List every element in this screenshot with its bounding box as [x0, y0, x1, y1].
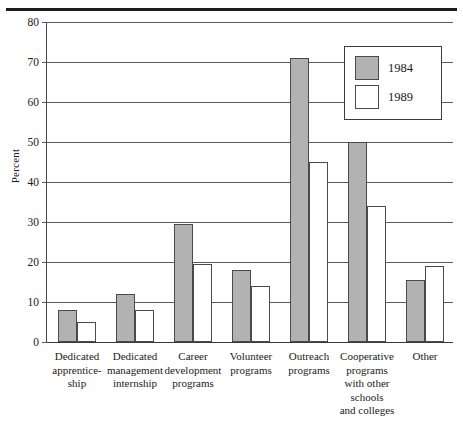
y-tick-label-40: 40 — [28, 176, 40, 188]
x-category-label-line: and colleges — [332, 404, 402, 418]
y-tick-mark-70 — [42, 62, 47, 63]
y-tick-label-50: 50 — [28, 136, 40, 148]
x-category-label-6: Other — [390, 350, 460, 364]
y-tick-mark-80 — [42, 22, 47, 23]
gridline-20 — [47, 262, 453, 263]
y-axis-title: Percent — [9, 126, 21, 206]
x-category-label-line: Other — [390, 350, 460, 364]
y-tick-label-20: 20 — [28, 256, 40, 268]
y-tick-mark-30 — [42, 222, 47, 223]
bar-1989-cat6 — [425, 266, 444, 342]
chart-legend: 1984 1989 — [344, 46, 442, 120]
bar-1989-cat0 — [77, 322, 96, 342]
y-tick-mark-50 — [42, 142, 47, 143]
legend-label-1984: 1984 — [388, 61, 413, 76]
y-tick-label-30: 30 — [28, 216, 40, 228]
y-tick-label-60: 60 — [28, 96, 40, 108]
x-category-label-line: schools — [332, 391, 402, 405]
bar-1989-cat4 — [309, 162, 328, 342]
y-tick-mark-20 — [42, 262, 47, 263]
bar-1989-cat3 — [251, 286, 270, 342]
y-tick-mark-40 — [42, 182, 47, 183]
legend-swatch-1984-icon — [355, 56, 379, 80]
legend-entry-1989: 1989 — [355, 85, 413, 109]
bar-1984-cat3 — [232, 270, 251, 342]
gridline-30 — [47, 222, 453, 223]
legend-label-1989: 1989 — [388, 90, 413, 105]
gridline-80 — [47, 22, 453, 23]
bar-1984-cat2 — [174, 224, 193, 342]
bar-1989-cat5 — [367, 206, 386, 342]
bar-1989-cat2 — [193, 264, 212, 342]
y-tick-label-10: 10 — [28, 296, 40, 308]
y-tick-label-0: 0 — [33, 336, 39, 348]
x-category-label-line: with other — [332, 377, 402, 391]
bar-1984-cat4 — [290, 58, 309, 342]
bar-1984-cat6 — [406, 280, 425, 342]
y-tick-mark-10 — [42, 302, 47, 303]
bar-1984-cat1 — [116, 294, 135, 342]
legend-swatch-1989-icon — [355, 85, 379, 109]
y-tick-label-80: 80 — [28, 16, 40, 28]
y-tick-mark-60 — [42, 102, 47, 103]
gridline-0 — [47, 342, 453, 343]
x-category-label-line: programs — [332, 364, 402, 378]
top-rule — [6, 8, 457, 11]
bar-1984-cat5 — [348, 142, 367, 342]
legend-entry-1984: 1984 — [355, 56, 413, 80]
gridline-50 — [47, 142, 453, 143]
x-category-label-line: programs — [158, 377, 228, 391]
y-tick-mark-0 — [42, 342, 47, 343]
gridline-40 — [47, 182, 453, 183]
bar-1984-cat0 — [58, 310, 77, 342]
y-tick-label-70: 70 — [28, 56, 40, 68]
bar-1989-cat1 — [135, 310, 154, 342]
chart-figure: Percent 01020304050607080 1984 1989 Dedi… — [0, 0, 463, 423]
